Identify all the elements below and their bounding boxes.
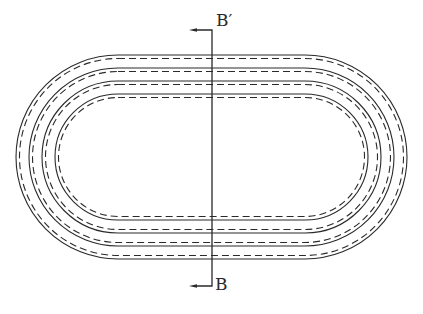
arrow-left-icon xyxy=(189,284,197,288)
section-label-bottom: B xyxy=(215,276,228,293)
arrow-left-icon xyxy=(189,28,197,32)
section-cut-line xyxy=(189,28,212,288)
section-drawing xyxy=(0,0,423,314)
section-label-top: B′ xyxy=(216,12,232,29)
